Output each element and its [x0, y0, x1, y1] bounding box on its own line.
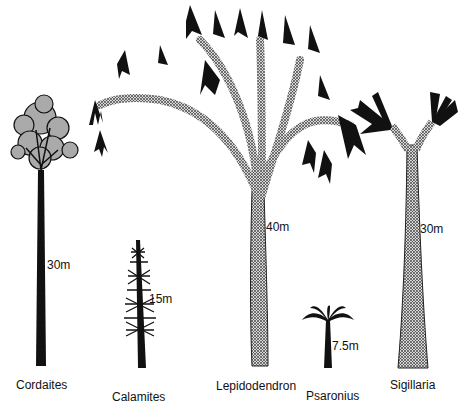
- tree-comparison-diagram: 30m 15m 40m 7.5m 30m Cordaites Calamites…: [0, 0, 459, 406]
- lepidodendron-label: Lepidodendron: [216, 379, 296, 393]
- tree-illustrations: [0, 0, 459, 406]
- psaronius-icon: [302, 306, 354, 368]
- cordaites-label: Cordaites: [16, 378, 67, 392]
- cordaites-icon: [11, 95, 78, 366]
- psaronius-label: Psaronius: [306, 389, 359, 403]
- psaronius-height: 7.5m: [332, 339, 359, 353]
- lepidodendron-height: 40m: [266, 220, 289, 234]
- lepidodendron-icon: [89, 5, 366, 366]
- calamites-label: Calamites: [112, 390, 165, 404]
- sigillaria-height: 30m: [420, 222, 443, 236]
- cordaites-height: 30m: [47, 258, 70, 272]
- calamites-height: 15m: [149, 292, 172, 306]
- sigillaria-label: Sigillaria: [390, 378, 435, 392]
